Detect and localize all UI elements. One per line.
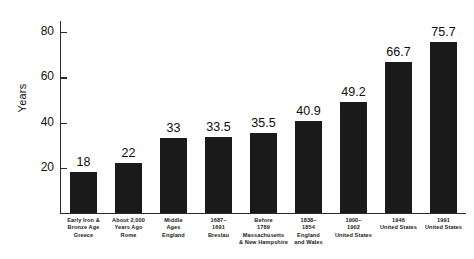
bar xyxy=(385,62,412,213)
bar xyxy=(205,137,232,213)
bar xyxy=(70,172,97,213)
life-expectancy-bar-chart: Years 20406080 18223333.535.540.949.266.… xyxy=(0,0,474,259)
bar xyxy=(250,133,277,213)
bar xyxy=(160,138,187,213)
bar-group: 35.5 xyxy=(250,21,277,213)
bar-group: 33.5 xyxy=(205,21,232,213)
y-axis-tick-label: 40 xyxy=(18,115,54,129)
bar-group: 75.7 xyxy=(430,21,457,213)
x-axis-category-labels: Early Iron &Bronze AgeGreeceAbout 2,000Y… xyxy=(61,217,466,257)
bar-value-label: 49.2 xyxy=(326,85,381,99)
bar-value-label: 66.7 xyxy=(371,45,426,59)
bar-group: 22 xyxy=(115,21,142,213)
y-axis-tick-label: 80 xyxy=(18,24,54,38)
bar xyxy=(115,163,142,213)
x-axis-category-label: 1838–1854Englandand Wales xyxy=(283,217,334,247)
bar-group: 49.2 xyxy=(340,21,367,213)
x-axis-category-label: 1991United States xyxy=(418,217,469,232)
bar-group: 33 xyxy=(160,21,187,213)
bar-value-label: 40.9 xyxy=(281,104,336,118)
y-axis-tick-label: 20 xyxy=(18,160,54,174)
x-axis-category-label: Before1789Massachusetts& New Hampshire xyxy=(238,217,289,247)
bar xyxy=(430,42,457,213)
bar-group: 66.7 xyxy=(385,21,412,213)
x-axis-category-label: MiddleAgesEngland xyxy=(148,217,199,239)
bar-value-label: 22 xyxy=(101,146,156,160)
x-axis-category-label: About 2,000Years AgoRome xyxy=(103,217,154,239)
x-axis-category-label: Early Iron &Bronze AgeGreece xyxy=(58,217,109,239)
bar xyxy=(340,102,367,213)
bar-value-label: 35.5 xyxy=(236,116,291,130)
x-axis-category-label: 1946United States xyxy=(373,217,424,232)
plot-area: 18223333.535.540.949.266.775.7 xyxy=(61,21,466,213)
x-axis-category-label: 1900–1902United States xyxy=(328,217,379,239)
x-axis-category-label: 1687–1691Breslau xyxy=(193,217,244,239)
bar xyxy=(295,121,322,213)
bar-group: 40.9 xyxy=(295,21,322,213)
bar-value-label: 75.7 xyxy=(416,25,471,39)
bar-group: 18 xyxy=(70,21,97,213)
y-axis-tick-label: 60 xyxy=(18,69,54,83)
